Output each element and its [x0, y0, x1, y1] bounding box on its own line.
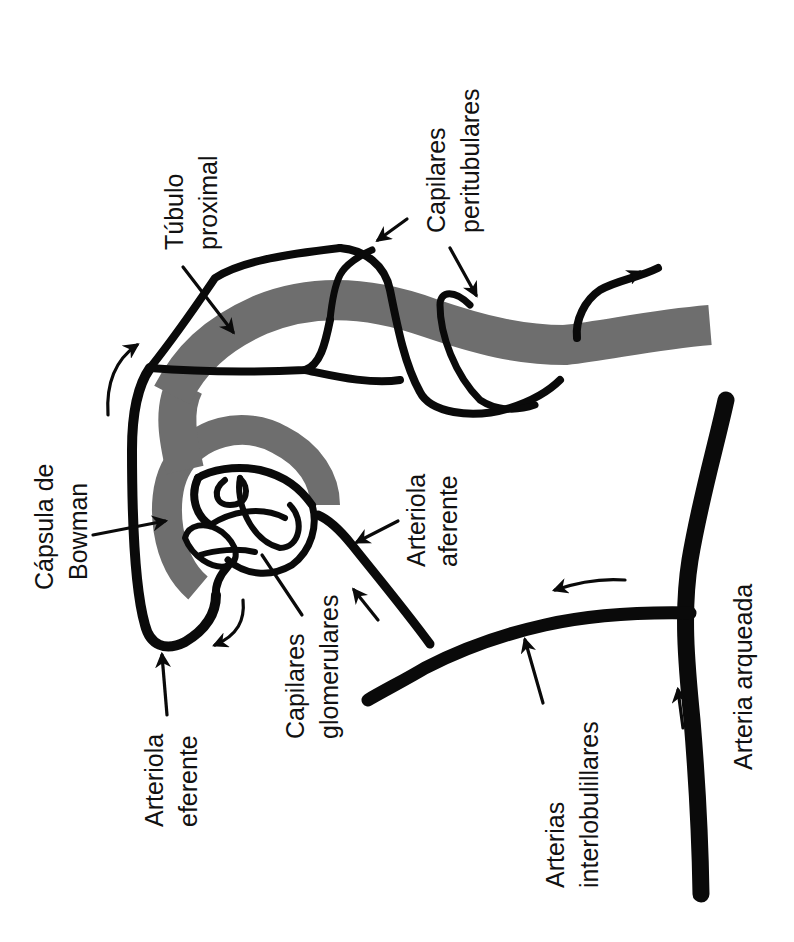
flow-arrow-outflow — [597, 272, 640, 292]
label-line: peritubulares — [456, 88, 484, 233]
label-line: Túbulo — [160, 174, 188, 250]
label-capilares-peritubulares: Capilares peritubulares — [422, 88, 484, 233]
label-line: Arterias — [541, 802, 569, 888]
label-line: glomerulares — [315, 594, 343, 739]
pointer-arteriola-eferente — [162, 655, 167, 715]
label-line: Capilares — [281, 633, 309, 739]
flow-arrow-interlobular — [555, 579, 625, 590]
label-arteriola-eferente: Arteriola eferente — [140, 727, 202, 827]
label-arterias-interlobulillares: Arterias interlobulillares — [541, 721, 603, 888]
label-capsula-bowman: Cápsula de Bowman — [30, 457, 92, 590]
label-line: Capilares — [422, 127, 450, 233]
label-line: aferente — [434, 475, 462, 567]
pointer-capilares-peritubulares-1 — [378, 219, 407, 240]
nephron-microcirculation-diagram: Túbulo proximal Capilares peritubulares … — [0, 0, 794, 942]
label-capilares-glomerulares: Capilares glomerulares — [281, 594, 343, 739]
label-arteriola-aferente: Arteriola aferente — [402, 467, 462, 567]
label-line: Arteria arqueada — [729, 584, 757, 770]
label-arteria-arqueada: Arteria arqueada — [729, 584, 757, 770]
labels: Túbulo proximal Capilares peritubulares … — [30, 88, 757, 888]
label-line: Arteriola — [140, 734, 168, 827]
label-line: interlobulillares — [575, 721, 603, 888]
label-line: Arteriola — [402, 474, 430, 567]
pointer-arterias-interlobulillares — [525, 640, 543, 703]
label-line: proximal — [194, 156, 222, 250]
label-line: Cápsula de — [30, 464, 58, 590]
pointer-arteriola-aferente — [357, 521, 398, 542]
label-line: Bowman — [64, 483, 92, 580]
pointer-capilares-peritubulares-2 — [450, 248, 476, 295]
arcuate-artery — [686, 400, 726, 894]
flow-arrow-afferent — [354, 590, 378, 620]
label-tubulo-proximal: Túbulo proximal — [160, 156, 222, 250]
label-line: eferente — [174, 735, 202, 827]
